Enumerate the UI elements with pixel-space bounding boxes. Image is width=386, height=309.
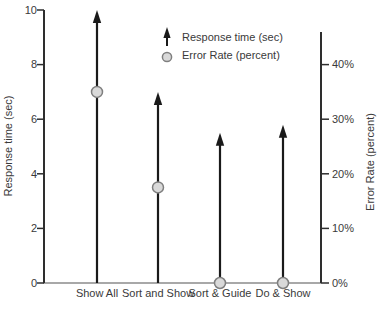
left-tick-label: 8 bbox=[13, 58, 37, 70]
legend-item-error-rate bbox=[161, 49, 173, 67]
plot-canvas bbox=[0, 0, 386, 309]
arrow-up-icon bbox=[160, 26, 174, 47]
left-tick-label: 6 bbox=[13, 113, 37, 125]
legend-label-error-rate: Error Rate (percent) bbox=[182, 49, 280, 61]
right-tick-label: 0% bbox=[332, 277, 366, 289]
right-tick-label: 30% bbox=[332, 113, 366, 125]
dual-axis-arrow-chart: 10 8 6 4 2 0 40% 30% 20% 10% 0% Show All… bbox=[0, 0, 386, 309]
circle-marker-icon bbox=[161, 51, 173, 63]
left-tick-label: 4 bbox=[13, 168, 37, 180]
left-tick-label: 10 bbox=[13, 4, 37, 16]
right-axis-title: Error Rate (percent) bbox=[364, 92, 378, 232]
left-tick-label: 2 bbox=[13, 222, 37, 234]
left-tick-label: 0 bbox=[13, 277, 37, 289]
response-time-arrow-head bbox=[154, 92, 162, 105]
right-tick-label: 40% bbox=[332, 58, 366, 70]
right-tick-label: 10% bbox=[332, 222, 366, 234]
response-time-arrow-head bbox=[93, 10, 101, 23]
legend-label-response-time: Response time (sec) bbox=[182, 31, 283, 43]
right-tick-label: 20% bbox=[332, 168, 366, 180]
error-rate-marker bbox=[153, 182, 164, 193]
category-label: Do & Show bbox=[243, 287, 323, 299]
response-time-arrow-head bbox=[216, 133, 224, 146]
left-axis-title: Response time (sec) bbox=[2, 76, 16, 216]
error-rate-marker bbox=[92, 86, 103, 97]
legend-item-response-time bbox=[160, 26, 174, 51]
response-time-arrow-head bbox=[279, 125, 287, 138]
